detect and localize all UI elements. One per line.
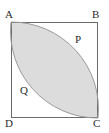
vertex-label-A: A (5, 9, 13, 20)
geometry-figure: A B C D P Q (0, 0, 109, 133)
vertex-label-B: B (92, 9, 99, 20)
vertex-label-C: C (93, 118, 100, 129)
shaded-lens-region (11, 22, 99, 118)
region-label-Q: Q (20, 85, 28, 96)
vertex-label-D: D (5, 118, 13, 129)
region-label-P: P (75, 34, 81, 45)
